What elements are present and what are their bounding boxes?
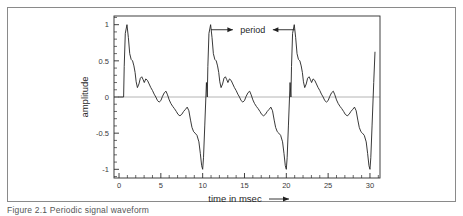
waveform-chart: 05101520253010.50-0.5-1time in msecampli…	[0, 0, 463, 216]
y-tick-label: -0.5	[96, 129, 109, 138]
x-tick-label: 25	[324, 181, 332, 190]
x-tick-label: 0	[117, 181, 121, 190]
x-tick-label: 15	[240, 181, 248, 190]
y-tick-label: 1	[105, 20, 109, 29]
y-axis-label: amplitude	[79, 76, 90, 117]
period-arrow-left-head	[227, 27, 233, 32]
x-tick-label: 5	[159, 181, 163, 190]
period-arrow-right-head	[273, 27, 279, 32]
x-tick-label: 10	[198, 181, 206, 190]
figure-caption: Figure 2.1 Periodic signal waveform	[7, 205, 456, 216]
figure-root: 05101520253010.50-0.5-1time in msecampli…	[0, 0, 463, 216]
period-annotation-label: period	[240, 25, 265, 35]
x-axis-arrow-head	[283, 196, 289, 201]
y-tick-label: 0	[105, 93, 109, 102]
x-axis-label: time in msec	[208, 193, 262, 204]
y-tick-label: -1	[102, 165, 109, 174]
x-tick-label: 30	[366, 181, 374, 190]
y-tick-label: 0.5	[99, 57, 109, 66]
x-tick-label: 20	[282, 181, 290, 190]
